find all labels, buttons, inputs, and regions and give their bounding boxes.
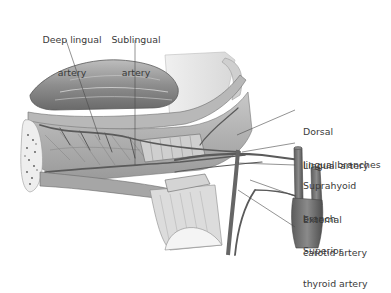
label-line: artery xyxy=(110,67,162,78)
label-line: Dorsal xyxy=(303,126,381,137)
label-line: thyroid artery xyxy=(303,278,368,289)
superior-thyroid-vessel xyxy=(235,190,255,255)
label-line: Superior xyxy=(303,245,368,256)
label-deep-lingual-artery: Deep lingual artery xyxy=(36,12,108,100)
label-line: Deep lingual xyxy=(36,34,108,45)
label-line: artery xyxy=(36,67,108,78)
label-superior-thyroid-artery: Superior thyroid artery xyxy=(303,223,368,293)
label-line: Sublingual xyxy=(110,34,162,45)
external-carotid-artery-vessel xyxy=(294,148,303,200)
label-line: Suprahyoid xyxy=(303,180,356,191)
label-sublingual-artery: Sublingual artery xyxy=(110,12,162,100)
